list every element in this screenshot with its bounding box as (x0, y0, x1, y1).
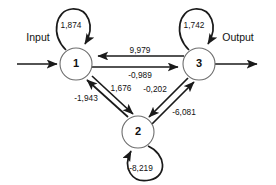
edge-3-to-2-label: -0,202 (143, 84, 167, 94)
edge-3-to-1: 9,979 (98, 45, 184, 56)
self-loop-node-2: -8,219 (128, 146, 163, 181)
self-loop-node-1: 1,874 (57, 9, 90, 50)
self-loop-node-3: 1,742 (180, 9, 213, 50)
edge-1-to-3-label: -0,989 (128, 70, 152, 80)
input-arrow-group: Input (17, 31, 57, 64)
self-loop-node-2-label: -8,219 (129, 163, 153, 173)
node-3[interactable]: 3 (183, 48, 215, 80)
self-loop-node-3-label: 1,742 (184, 20, 205, 30)
edge-2-to-1-label: -1,943 (74, 93, 98, 103)
edge-3-to-1-label: 9,979 (130, 45, 151, 55)
diagram-canvas: Input Output 9,979 -0,989 -1,943 1,676 (0, 0, 276, 185)
edge-1-to-2: 1,676 (92, 76, 133, 114)
edge-2-to-3-label: -6,081 (172, 107, 196, 117)
node-1[interactable]: 1 (60, 48, 92, 80)
node-1-label: 1 (73, 57, 79, 69)
input-label: Input (26, 31, 49, 43)
output-arrow-group: Output (215, 31, 257, 64)
output-label: Output (222, 31, 254, 43)
state-transition-diagram: Input Output 9,979 -0,989 -1,943 1,676 (0, 0, 276, 185)
edge-1-to-2-line (92, 76, 133, 114)
edge-1-to-3: -0,989 (91, 67, 178, 80)
node-2[interactable]: 2 (122, 116, 154, 148)
node-2-label: 2 (135, 125, 141, 137)
node-3-label: 3 (196, 57, 202, 69)
edge-1-to-2-label: 1,676 (111, 83, 132, 93)
self-loop-node-1-label: 1,874 (61, 20, 82, 30)
